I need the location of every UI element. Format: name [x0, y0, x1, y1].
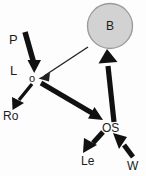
edge-b-to-o-arrowhead: [39, 73, 51, 82]
node-label-b: B: [106, 20, 114, 32]
edge-p-to-o: [25, 32, 41, 73]
edge-o-to-ro: [12, 84, 32, 110]
edge-os-to-le: [83, 132, 103, 153]
edge-os-to-b-line: [108, 66, 114, 122]
node-label-l: L: [10, 64, 17, 77]
edge-b-to-o: [39, 47, 89, 82]
edge-o-to-os: [41, 83, 103, 120]
node-label-w: W: [127, 160, 138, 172]
node-label-o: o: [29, 73, 35, 84]
edge-b-to-o-line: [44, 47, 88, 76]
path-diagram: P L o Ro B OS Le W: [0, 0, 146, 176]
node-label-ro: Ro: [3, 110, 18, 122]
node-label-p: P: [9, 33, 18, 46]
edge-os-to-b-arrowhead: [99, 49, 118, 64]
node-label-le: Le: [81, 155, 94, 167]
edge-w-to-os-line: [124, 145, 133, 157]
edge-p-to-o-line: [25, 32, 34, 62]
node-label-os: OS: [102, 122, 119, 134]
diagram-canvas: [0, 0, 146, 176]
edge-os-to-b: [99, 49, 118, 122]
edge-o-to-ro-line: [19, 84, 32, 100]
edge-w-to-os: [113, 133, 133, 157]
edge-o-to-os-line: [41, 83, 92, 113]
